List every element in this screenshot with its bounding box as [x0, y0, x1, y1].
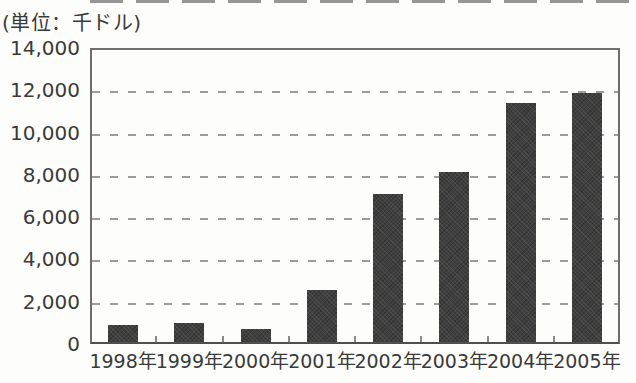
- bar-2003年: [439, 172, 469, 342]
- plot-area: [90, 48, 620, 344]
- gridline-2000: [92, 303, 618, 305]
- cropped-title-remnant: [90, 0, 632, 3]
- y-axis-label-12000: 12,000: [0, 79, 80, 101]
- x-axis-tick: [553, 336, 555, 342]
- x-axis-tick: [354, 336, 356, 342]
- bar-2001年: [307, 290, 337, 342]
- gridline-8000: [92, 176, 618, 178]
- x-axis-tick: [420, 336, 422, 342]
- x-axis-label-2005年: 2005年: [547, 350, 627, 372]
- x-axis-tick: [288, 336, 290, 342]
- chart-canvas: (単位：千ドル) 02,0004,0006,0008,00010,00012,0…: [0, 0, 636, 383]
- bar-2005年: [572, 93, 602, 342]
- y-axis-label-0: 0: [0, 333, 80, 355]
- x-axis-tick: [487, 336, 489, 342]
- x-axis-tick: [222, 336, 224, 342]
- gridline-10000: [92, 134, 618, 136]
- gridline-4000: [92, 260, 618, 262]
- y-axis-label-2000: 2,000: [0, 291, 80, 313]
- gridline-12000: [92, 91, 618, 93]
- y-axis-label-8000: 8,000: [0, 164, 80, 186]
- bar-1999年: [174, 323, 204, 342]
- bar-2004年: [506, 103, 536, 342]
- bar-2000年: [241, 329, 271, 342]
- bar-1998年: [108, 325, 138, 342]
- y-axis-label-4000: 4,000: [0, 248, 80, 270]
- y-axis-label-10000: 10,000: [0, 122, 80, 144]
- gridline-6000: [92, 218, 618, 220]
- y-axis-label-6000: 6,000: [0, 206, 80, 228]
- x-axis-tick: [155, 336, 157, 342]
- unit-label: (単位：千ドル): [2, 11, 142, 35]
- bar-2002年: [373, 194, 403, 342]
- y-axis-label-14000: 14,000: [0, 37, 80, 59]
